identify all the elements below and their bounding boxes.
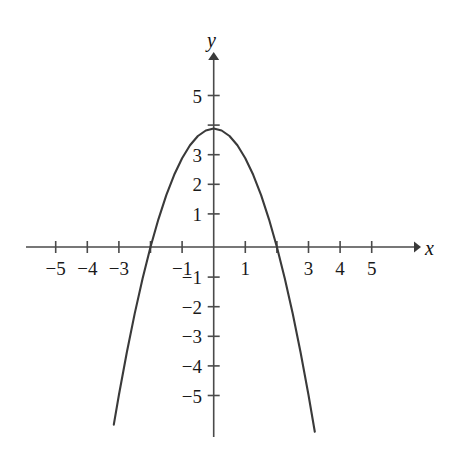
y-tick-label-plus-5: 5 [193, 86, 203, 105]
graph-figure: y x −5 −4 −3 −1 1 3 4 5 5 3 2 1 −1 −2 −3… [0, 0, 453, 464]
x-axis [26, 241, 421, 253]
x-axis-name: x [425, 238, 434, 258]
cartesian-plot [0, 0, 453, 464]
y-tick-label-minus-5: −5 [182, 386, 202, 405]
x-tick-label-plus-1: 1 [241, 259, 251, 278]
y-axis-arrowhead [208, 52, 219, 60]
y-tick-label-minus-1: −1 [182, 268, 202, 287]
x-tick-label-minus-5: −5 [46, 259, 66, 278]
x-tick-label-minus-3: −3 [109, 259, 129, 278]
y-tick-label-minus-3: −3 [182, 327, 202, 346]
x-axis-arrowhead [414, 242, 421, 253]
y-tick-label-minus-4: −4 [182, 356, 202, 375]
x-tick-label-plus-3: 3 [304, 259, 314, 278]
y-tick-label-plus-1: 1 [193, 204, 203, 223]
x-tick-label-minus-4: −4 [77, 259, 97, 278]
y-tick-label-plus-3: 3 [193, 145, 203, 164]
y-tick-label-plus-2: 2 [193, 175, 203, 194]
x-tick-label-plus-4: 4 [335, 259, 345, 278]
y-axis-name: y [207, 30, 216, 50]
y-tick-label-minus-2: −2 [182, 297, 202, 316]
x-tick-label-plus-5: 5 [367, 259, 377, 278]
y-axis [208, 52, 220, 437]
